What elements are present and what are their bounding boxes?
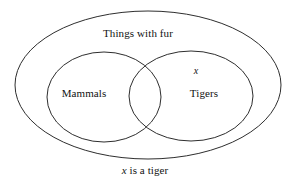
left-set-label: Mammals [62,87,107,99]
caption-marker: x [122,164,127,176]
element-marker: x [194,65,199,77]
outer-set-label: Things with fur [103,27,173,39]
caption: x is a tiger [122,164,169,176]
right-set-label: Tigers [190,87,218,99]
caption-text: is a tiger [129,164,168,176]
venn-diagram: Things with fur Mammals x Tigers x is a … [0,0,290,184]
